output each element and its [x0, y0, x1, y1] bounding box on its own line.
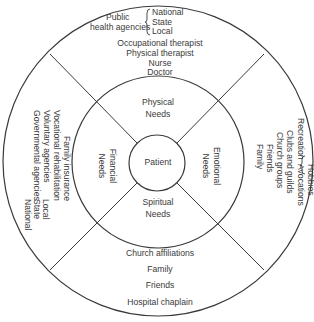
vocational-rehabilitation: Vocational rehabilitation	[52, 110, 61, 201]
emotional-needs-label: Emotional Needs	[202, 143, 221, 189]
friends: Friends	[265, 144, 274, 173]
emotional-needs-line1: Emotional	[212, 143, 221, 189]
spiritual-needs-line1: Spiritual	[142, 198, 173, 207]
emotional-needs-line2: Needs	[202, 143, 211, 189]
family-insurance: Family insurance	[62, 136, 71, 201]
clubs-and-guilds: Clubs and guilds	[285, 130, 294, 194]
family: Family	[255, 144, 264, 169]
emotional-resources-group: Recreation Hobbies Avocations Clubs and …	[225, 118, 305, 218]
financial-needs-line2: Needs	[98, 143, 107, 189]
governmental-local: Local	[41, 199, 50, 220]
occupational-therapist: Occupational therapist	[100, 39, 220, 48]
voluntary-agencies: Voluntary agencies	[42, 110, 51, 183]
brace-icon	[145, 8, 151, 36]
financial-needs-label: Financial Needs	[98, 143, 117, 189]
governmental-national: National	[23, 199, 32, 231]
spiritual-needs-label: Spiritual Needs	[128, 198, 188, 218]
spiritual-needs-line2: Needs	[146, 210, 171, 219]
physical-therapist: Physical therapist	[100, 49, 220, 58]
hospital-chaplain: Hospital chaplain	[100, 298, 220, 307]
hobbies: Hobbies	[306, 164, 314, 196]
financial-needs-line1: Financial	[108, 143, 117, 189]
church-affiliations: Church affiliations	[100, 249, 220, 258]
recreation-label: Recreation	[296, 118, 305, 160]
church-groups: Church groups	[275, 132, 284, 188]
public-health-local: Local	[152, 27, 173, 36]
health-agencies-label: health agencies	[90, 23, 150, 32]
governmental-state: State	[32, 199, 41, 219]
friends: Friends	[100, 281, 220, 290]
doctor: Doctor	[100, 68, 220, 77]
financial-resources-group: Family insurance Vocational rehabilitati…	[11, 136, 71, 266]
physical-needs-label: Physical Needs	[128, 98, 188, 118]
avocations: Avocations	[296, 164, 305, 206]
public-health-national: National	[152, 8, 184, 17]
governmental-agencies: Governmental agencies	[32, 110, 41, 201]
physical-needs-line2: Needs	[146, 110, 171, 119]
physical-needs-line1: Physical	[142, 98, 174, 107]
public-label: Public	[106, 13, 129, 22]
patient-label: Patient	[137, 158, 179, 167]
family: Family	[100, 265, 220, 274]
